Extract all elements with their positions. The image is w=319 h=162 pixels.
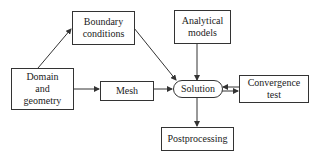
node-label: Boundary conditions [83, 16, 125, 40]
node-postprocessing: Postprocessing [161, 127, 234, 151]
node-boundary-conditions: Boundary conditions [72, 11, 135, 45]
node-label: Convergence test [248, 77, 301, 101]
node-domain-and-geometry: Domain and geometry [11, 68, 74, 110]
node-label: Mesh [116, 85, 138, 97]
node-label: Analytical models [182, 15, 224, 39]
node-solution: Solution [173, 80, 223, 98]
node-analytical-models: Analytical models [174, 10, 231, 44]
node-mesh: Mesh [100, 81, 154, 101]
node-label: Solution [181, 83, 215, 95]
node-convergence-test: Convergence test [239, 75, 309, 103]
node-label: Domain and geometry [24, 71, 62, 107]
node-label: Postprocessing [168, 133, 228, 145]
arrow-boundary-to-solution [134, 28, 176, 80]
arrow-domain-to-boundary [38, 29, 71, 68]
